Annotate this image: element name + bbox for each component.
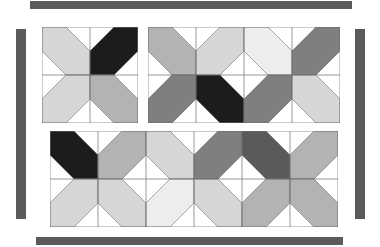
block-top-left [42,27,138,123]
top-bar [30,1,352,9]
left-bar [16,29,26,219]
bottom-bar [36,237,343,245]
quilt-diagram-canvas [0,0,380,247]
right-bar [355,29,365,219]
block-top-right [148,27,340,123]
block-bottom [50,131,338,227]
